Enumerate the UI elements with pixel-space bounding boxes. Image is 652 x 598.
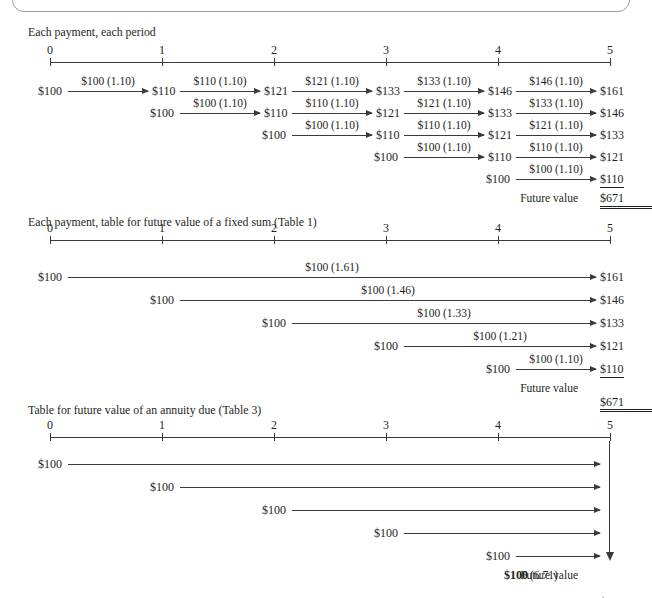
- s3-total-factor-amount: $100: [504, 570, 528, 582]
- section-1-tick-label-2: 2: [271, 44, 277, 56]
- section-3-tick-label-0: 0: [47, 419, 53, 431]
- callout-box: [12, 0, 630, 12]
- s2-r4-label: $100 (1.10): [529, 354, 583, 366]
- s1-r2-result-1: $121: [488, 130, 512, 142]
- s2-r1-label: $100 (1.46): [361, 285, 415, 297]
- s2-r3-arrow: [404, 346, 596, 347]
- s1-r0-start: $100: [38, 86, 62, 98]
- section-3-tick-label-3: 3: [383, 419, 389, 431]
- s2-r2-result: $133: [600, 318, 624, 330]
- s1-r0-label-0: $100 (1.10): [81, 76, 135, 88]
- s1-r4-arrow-0: [516, 179, 596, 180]
- section-3-tick-label-2: 2: [271, 419, 277, 431]
- s3-r0-arrow: [68, 464, 600, 465]
- section-3-drop-arrowhead: [606, 552, 614, 561]
- section-3-tick-4: [498, 433, 499, 441]
- s2-r1-start: $100: [150, 295, 174, 307]
- s2-total-value: $671: [600, 397, 652, 411]
- section-3-tick-label-5: 5: [607, 419, 613, 431]
- s3-r2-arrow: [292, 510, 600, 511]
- s1-r1-arrow-0: [180, 113, 260, 114]
- s1-r3-result-1: $121: [600, 152, 624, 164]
- s1-r1-arrow-1: [292, 113, 372, 114]
- s1-r4-result-0: $110: [600, 174, 624, 188]
- section-3-tick-3: [386, 433, 387, 441]
- s1-r1-result-1: $121: [376, 108, 400, 120]
- s3-total-factor: (6.71): [530, 570, 558, 582]
- section-1-tick-label-4: 4: [495, 44, 501, 56]
- section-2-tick-4: [498, 236, 499, 244]
- s1-r3-label-1: $110 (1.10): [529, 142, 582, 154]
- s1-r0-label-4: $146 (1.10): [529, 76, 583, 88]
- section-1-tick-2: [274, 58, 275, 66]
- s1-r2-result-0: $110: [376, 130, 400, 142]
- s1-r1-arrow-2: [404, 113, 484, 114]
- section-2-tick-label-4: 4: [495, 222, 501, 234]
- section-3-heading: Table for future value of an annuity due…: [28, 404, 261, 416]
- s2-r3-label: $100 (1.21): [473, 331, 527, 343]
- s2-r0-arrow: [68, 277, 596, 278]
- section-2-tick-label-0: 0: [47, 222, 53, 234]
- s1-r0-label-3: $133 (1.10): [417, 76, 471, 88]
- s1-r3-arrow-1: [516, 157, 596, 158]
- s1-r0-arrow-4: [516, 91, 596, 92]
- s1-r1-arrow-3: [516, 113, 596, 114]
- section-2-tick-5: [610, 236, 611, 244]
- section-2-tick-3: [386, 236, 387, 244]
- s2-r1-arrow: [180, 300, 596, 301]
- section-2-tick-label-5: 5: [607, 222, 613, 234]
- s2-r4-start: $100: [486, 364, 510, 376]
- section-3-tick-2: [274, 433, 275, 441]
- s1-r1-start: $100: [150, 108, 174, 120]
- s2-r3-start: $100: [374, 341, 398, 353]
- section-2-tick-1: [162, 236, 163, 244]
- s1-r2-result-2: $133: [600, 130, 624, 142]
- section-1-tick-0: [50, 58, 51, 66]
- s1-r0-arrow-2: [292, 91, 372, 92]
- s1-total-value: $671: [600, 193, 652, 207]
- section-3-drop-line: [609, 441, 610, 555]
- s1-r3-label-0: $100 (1.10): [417, 142, 471, 154]
- s1-r0-label-2: $121 (1.10): [305, 76, 359, 88]
- s1-r0-label-1: $110 (1.10): [193, 76, 246, 88]
- section-1-tick-5: [610, 58, 611, 66]
- s2-r0-label: $100 (1.61): [305, 262, 359, 274]
- s3-r4-arrow: [516, 556, 600, 557]
- s2-r4-result: $110: [600, 364, 624, 378]
- s1-r1-label-0: $100 (1.10): [193, 98, 247, 110]
- s3-r3-arrow: [404, 533, 600, 534]
- s3-r1-arrow: [180, 487, 600, 488]
- section-3-tick-label-4: 4: [495, 419, 501, 431]
- s1-r4-label-0: $100 (1.10): [529, 164, 583, 176]
- s2-r2-label: $100 (1.33): [417, 308, 471, 320]
- s1-r2-label-1: $110 (1.10): [417, 120, 470, 132]
- section-1-tick-3: [386, 58, 387, 66]
- section-2-tick-0: [50, 236, 51, 244]
- s2-total-label: Future value: [520, 383, 578, 395]
- section-3-tick-0: [50, 433, 51, 441]
- s3-r1-start: $100: [150, 482, 174, 494]
- s1-r0-result-3: $146: [488, 86, 512, 98]
- s1-r0-arrow-3: [404, 91, 484, 92]
- s1-r0-result-2: $133: [376, 86, 400, 98]
- s1-r2-arrow-1: [404, 135, 484, 136]
- section-1-heading: Each payment, each period: [28, 26, 156, 38]
- section-2-tick-label-2: 2: [271, 222, 277, 234]
- s2-r4-arrow: [516, 369, 596, 370]
- s3-r0-start: $100: [38, 459, 62, 471]
- s1-r2-start: $100: [262, 130, 286, 142]
- s2-r2-arrow: [292, 323, 596, 324]
- s2-r3-result: $121: [600, 341, 624, 353]
- section-1-axis: [50, 62, 610, 63]
- s1-r0-result-1: $121: [264, 86, 288, 98]
- s1-r1-result-3: $146: [600, 108, 624, 120]
- s1-r1-label-1: $110 (1.10): [305, 98, 358, 110]
- s3-r2-start: $100: [262, 505, 286, 517]
- s2-r1-result: $146: [600, 295, 624, 307]
- s1-r2-label-0: $100 (1.10): [305, 120, 359, 132]
- s2-r2-start: $100: [262, 318, 286, 330]
- s1-r0-result-0: $110: [152, 86, 176, 98]
- s1-r3-start: $100: [374, 152, 398, 164]
- diagram-canvas: Each payment, each period 0 1 2 3 4 5 $1…: [0, 0, 652, 598]
- s1-r0-result-4: $161: [600, 86, 624, 98]
